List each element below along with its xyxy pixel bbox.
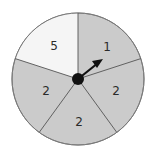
spinner-hub — [72, 73, 84, 85]
section-label-1: 1 — [103, 40, 111, 54]
section-label-2c: 2 — [42, 84, 50, 98]
section-label-5: 5 — [50, 39, 58, 53]
section-label-2a: 2 — [112, 84, 120, 98]
spinner: 1 2 2 2 5 — [0, 0, 154, 158]
section-label-2b: 2 — [75, 115, 83, 129]
